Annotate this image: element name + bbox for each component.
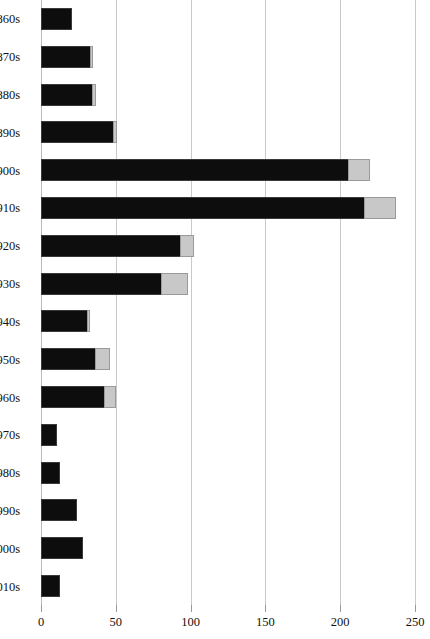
bar-1890s: [41, 121, 117, 143]
bar-1980s: [41, 462, 60, 484]
category-label-1950s: 1950s: [0, 354, 20, 367]
bar-row: 1890s: [41, 113, 415, 151]
category-label-1890s: 1890s: [0, 127, 20, 140]
bar-1970s: [41, 424, 57, 446]
bar-segment-primary: [41, 121, 113, 143]
category-label-1970s: 1970s: [0, 429, 20, 442]
x-tick-200: [340, 605, 341, 612]
category-label-1880s: 1880s: [0, 89, 20, 102]
x-tick-label-150: 150: [256, 615, 275, 630]
bar-1940s: [41, 310, 90, 332]
category-label-2000s: 2000s: [0, 543, 20, 556]
bar-row: 2010s: [41, 567, 415, 605]
category-label-1920s: 1920s: [0, 240, 20, 253]
bar-segment-secondary: [348, 159, 370, 181]
bar-segment-primary: [41, 348, 95, 370]
bar-segment-primary: [41, 273, 161, 295]
bar-row: 1910s: [41, 189, 415, 227]
bar-segment-primary: [41, 386, 104, 408]
category-label-1900s: 1900s: [0, 165, 20, 178]
bars-layer: 1860s1870s1880s1890s1900s1910s1920s1930s…: [41, 0, 415, 605]
category-label-1990s: 1990s: [0, 505, 20, 518]
bar-segment-secondary: [161, 273, 188, 295]
plot-area: 1860s1870s1880s1890s1900s1910s1920s1930s…: [41, 0, 415, 605]
bar-row: 1940s: [41, 303, 415, 341]
bar-segment-secondary: [104, 386, 116, 408]
category-label-1870s: 1870s: [0, 51, 20, 64]
x-tick-label-100: 100: [181, 615, 200, 630]
bar-segment-primary: [41, 310, 87, 332]
bar-1960s: [41, 386, 116, 408]
x-tick-label-0: 0: [38, 615, 44, 630]
x-tick-label-50: 50: [110, 615, 123, 630]
bar-segment-secondary: [113, 121, 117, 143]
bar-segment-primary: [41, 84, 92, 106]
x-tick-150: [265, 605, 266, 612]
bar-1860s: [41, 8, 72, 30]
bar-segment-primary: [41, 424, 57, 446]
bar-1950s: [41, 348, 110, 370]
category-label-1930s: 1930s: [0, 278, 20, 291]
bar-row: 1870s: [41, 38, 415, 76]
x-tick-label-200: 200: [331, 615, 350, 630]
bar-row: 1950s: [41, 340, 415, 378]
x-tick-250: [415, 605, 416, 612]
category-label-1980s: 1980s: [0, 467, 20, 480]
category-label-2010s: 2010s: [0, 581, 20, 594]
bar-row: 1860s: [41, 0, 415, 38]
bar-2010s: [41, 575, 60, 597]
bar-segment-secondary: [92, 84, 96, 106]
x-tick-50: [116, 605, 117, 612]
bar-row: 1960s: [41, 378, 415, 416]
bar-1990s: [41, 499, 77, 521]
bar-row: 1880s: [41, 76, 415, 114]
bar-segment-secondary: [95, 348, 110, 370]
x-axis: 050100150200250: [0, 605, 430, 639]
bar-chart: 1860s1870s1880s1890s1900s1910s1920s1930s…: [0, 0, 430, 639]
bar-segment-secondary: [364, 197, 395, 219]
bar-row: 1930s: [41, 265, 415, 303]
bar-1900s: [41, 159, 370, 181]
bar-segment-primary: [41, 235, 180, 257]
bar-segment-primary: [41, 159, 348, 181]
bar-segment-primary: [41, 46, 90, 68]
bar-segment-primary: [41, 462, 60, 484]
bar-row: 2000s: [41, 529, 415, 567]
bar-1920s: [41, 235, 194, 257]
bar-segment-primary: [41, 197, 364, 219]
bar-row: 1920s: [41, 227, 415, 265]
x-tick-label-250: 250: [406, 615, 425, 630]
bar-segment-primary: [41, 537, 83, 559]
bar-row: 1980s: [41, 454, 415, 492]
bar-1910s: [41, 197, 396, 219]
x-tick-100: [191, 605, 192, 612]
bar-row: 1970s: [41, 416, 415, 454]
bar-1870s: [41, 46, 93, 68]
gridline-x-250: [415, 0, 416, 605]
bar-segment-secondary: [180, 235, 193, 257]
bar-segment-primary: [41, 8, 72, 30]
bar-2000s: [41, 537, 83, 559]
bar-segment-secondary: [87, 310, 90, 332]
category-label-1940s: 1940s: [0, 316, 20, 329]
category-label-1860s: 1860s: [0, 13, 20, 26]
bar-segment-primary: [41, 575, 60, 597]
category-label-1910s: 1910s: [0, 202, 20, 215]
bar-1930s: [41, 273, 188, 295]
bar-row: 1990s: [41, 492, 415, 530]
bar-segment-primary: [41, 499, 77, 521]
bar-1880s: [41, 84, 96, 106]
category-label-1960s: 1960s: [0, 392, 20, 405]
bar-segment-secondary: [90, 46, 93, 68]
x-tick-0: [41, 605, 42, 612]
bar-row: 1900s: [41, 151, 415, 189]
